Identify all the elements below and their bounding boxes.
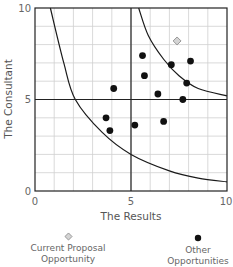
other-opportunity-point: [183, 80, 190, 87]
legend-label-current-proposal-line2: Opportunity: [41, 254, 96, 264]
y-axis-title: The Consultant: [2, 59, 14, 140]
plot-frame: [35, 8, 227, 191]
circle-marker-icon: [195, 235, 201, 241]
other-opportunity-point: [141, 72, 148, 79]
legend-item-other-opportunities: Other Opportunities: [167, 235, 229, 266]
y-tick-10: 10: [18, 3, 31, 14]
other-opportunity-point: [160, 118, 167, 125]
data-points: [103, 37, 194, 134]
legend-label-other-line2: Opportunities: [167, 256, 229, 266]
scatter-chart: 0 5 10 0 5 10 The Results The Consultant…: [0, 0, 233, 267]
other-opportunity-point: [139, 52, 146, 59]
other-opportunity-point: [103, 114, 110, 121]
other-opportunity-point: [131, 122, 138, 129]
legend-label-other-line1: Other: [185, 245, 211, 255]
other-opportunity-point: [110, 85, 117, 92]
current-proposal-point: [173, 37, 181, 45]
legend-label-current-proposal-line1: Current Proposal: [31, 243, 106, 253]
y-tick-5: 5: [25, 94, 31, 105]
other-opportunity-point: [187, 58, 194, 65]
boundary-curves: [50, 8, 227, 182]
y-tick-0: 0: [25, 186, 31, 197]
x-tick-0: 0: [32, 196, 38, 207]
x-tick-10: 10: [220, 196, 233, 207]
legend: Current Proposal Opportunity Other Oppor…: [31, 233, 229, 266]
other-opportunity-point: [106, 127, 113, 134]
other-opportunity-point: [154, 91, 161, 98]
lower-boundary-curve: [50, 8, 227, 182]
upper-boundary-curve: [139, 8, 227, 96]
legend-item-current-proposal: Current Proposal Opportunity: [31, 233, 106, 264]
diamond-marker-icon: [65, 233, 72, 240]
x-axis-title: The Results: [100, 210, 162, 222]
other-opportunity-point: [168, 61, 175, 68]
x-tick-5: 5: [128, 196, 134, 207]
other-opportunity-point: [179, 96, 186, 103]
